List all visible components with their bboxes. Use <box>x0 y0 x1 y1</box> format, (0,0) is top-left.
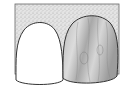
right-tooth <box>63 16 118 83</box>
left-tooth <box>16 23 63 85</box>
teeth-illustration <box>0 0 125 92</box>
